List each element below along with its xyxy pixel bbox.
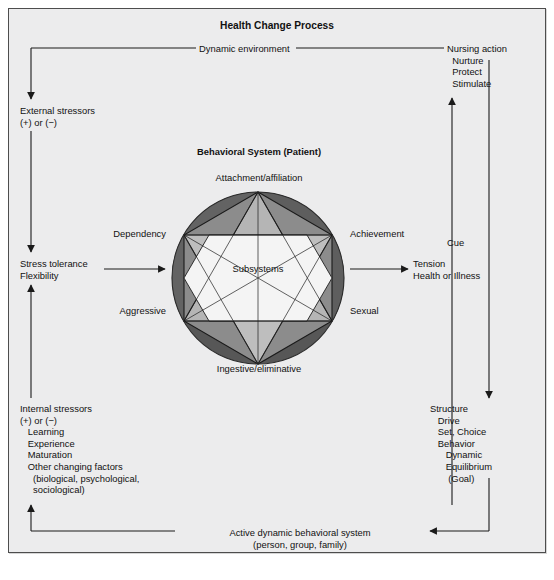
diagram-root: Health Change Process	[0, 0, 554, 580]
label-internal-stressors: Internal stressors (+) or (−) Learning E…	[20, 403, 139, 496]
label-subsystem-aggressive: Aggressive	[40, 305, 166, 317]
label-stress-tolerance: Stress tolerance Flexibility	[20, 258, 88, 281]
behavioral-system-graphic	[172, 192, 344, 364]
label-subsystem-sexual: Sexual	[350, 305, 379, 317]
label-subsystem-ingestive: Ingestive/eliminative	[163, 363, 355, 375]
label-subsystem-dependency: Dependency	[40, 228, 166, 240]
label-external-stressors: External stressors (+) or (−)	[20, 105, 95, 128]
label-dynamic-environment: Dynamic environment	[199, 43, 290, 55]
label-subsystem-achievement: Achievement	[350, 228, 404, 240]
label-subsystem-attachment: Attachment/affiliation	[163, 172, 355, 184]
label-cue: Cue	[447, 237, 464, 249]
label-behavioral-system-heading: Behavioral System (Patient)	[159, 146, 359, 158]
label-nursing-action: Nursing action Nurture Protect Stimulate	[447, 43, 507, 89]
label-active-dynamic-system: Active dynamic behavioral system (person…	[177, 527, 423, 550]
label-tension: Tension Health or Illness	[413, 258, 480, 281]
label-subsystems-center: Subsystems	[198, 263, 318, 275]
label-structure: Structure Drive Set, Choice Behavior Dyn…	[430, 403, 492, 484]
